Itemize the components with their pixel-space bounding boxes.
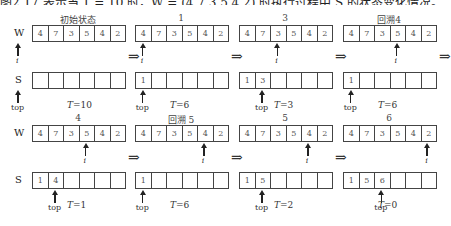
t-value: T=6 [378, 100, 397, 110]
i-pointer-label: i [84, 156, 87, 165]
top-pointer-label: top [48, 203, 61, 212]
panel-caption: 3 [239, 13, 331, 23]
s-cell [406, 173, 422, 188]
w-cell: 5 [80, 126, 96, 141]
w-cell: 4 [136, 26, 152, 41]
s-cell [80, 173, 96, 188]
header-text: 图2.17 表示当 T = 10 时，W = (4,7,3,5,4,2) 时执行… [0, 0, 449, 5]
s-cell: 6 [375, 173, 391, 188]
s-cell [287, 73, 303, 88]
w-cell: 7 [152, 26, 168, 41]
implies-arrow-icon: ⇒ [128, 150, 140, 164]
panel-caption: 5 [239, 113, 331, 123]
top-pointer-label: top [136, 203, 149, 212]
s-cell: 5 [360, 173, 376, 188]
w-cell: 4 [198, 126, 214, 141]
arrow-shaft [203, 147, 205, 156]
i-pointer-label: i [395, 56, 398, 65]
top-pointer-label: top [11, 103, 24, 112]
s-cell [64, 173, 80, 188]
top-pointer-label: top [136, 103, 149, 112]
t-value: T=0 [378, 200, 397, 210]
arrow-shaft [142, 194, 144, 203]
w-cell: 2 [318, 126, 333, 141]
w-cell: 2 [214, 26, 229, 41]
w-cell: 3 [375, 126, 391, 141]
w-cell: 7 [256, 126, 272, 141]
arrow-shaft [277, 47, 279, 56]
w-cell: 2 [422, 126, 437, 141]
s-cell: 5 [256, 173, 272, 188]
s-cell [33, 73, 49, 88]
i-pointer-label: i [425, 156, 428, 165]
w-cell: 5 [391, 26, 407, 41]
arrow-shaft [85, 147, 87, 156]
w-cell: 4 [240, 26, 256, 41]
w-label: W [14, 127, 24, 138]
arrow-shaft [350, 94, 352, 103]
s-cell [391, 173, 407, 188]
w-array: 473542 [343, 125, 437, 142]
w-cell: 4 [302, 126, 318, 141]
s-stack: 1 [135, 72, 229, 89]
s-cell [111, 173, 126, 188]
s-cell [167, 173, 183, 188]
arrow-shaft [307, 147, 309, 156]
w-cell: 4 [198, 26, 214, 41]
arrow-shaft [261, 94, 263, 103]
w-cell: 4 [33, 126, 49, 141]
t-number: =6 [176, 100, 189, 110]
top-pointer-label: top [255, 203, 268, 212]
arrow-shaft [142, 47, 144, 56]
w-cell: 5 [183, 26, 199, 41]
t-value: T=10 [67, 100, 92, 110]
s-stack: 1 [343, 72, 437, 89]
s-cell: 1 [344, 173, 360, 188]
s-stack: 1 [135, 172, 229, 189]
implies-arrow-icon: ⇒ [128, 49, 140, 63]
s-cell [318, 173, 333, 188]
t-value: T=6 [170, 200, 189, 210]
implies-arrow-icon: ⇒ [439, 49, 451, 63]
s-cell: 1 [240, 173, 256, 188]
w-cell: 3 [271, 26, 287, 41]
s-cell [391, 73, 407, 88]
w-cell: 4 [406, 26, 422, 41]
s-cell: 3 [256, 73, 272, 88]
w-cell: 2 [111, 26, 126, 41]
arrow-shaft [142, 94, 144, 103]
s-cell [95, 73, 111, 88]
s-cell: 1 [136, 173, 152, 188]
w-array: 473542 [239, 125, 333, 142]
s-cell [111, 73, 126, 88]
w-cell: 3 [271, 126, 287, 141]
s-cell [167, 73, 183, 88]
s-label: S [15, 174, 22, 185]
s-cell [49, 73, 65, 88]
s-stack: 13 [239, 72, 333, 89]
w-array: 473542 [135, 25, 229, 42]
implies-arrow-icon: ⇒ [231, 150, 243, 164]
w-cell: 5 [183, 126, 199, 141]
w-cell: 4 [240, 126, 256, 141]
s-stack: 15 [239, 172, 333, 189]
w-cell: 3 [167, 126, 183, 141]
s-cell [422, 173, 437, 188]
w-cell: 5 [287, 126, 303, 141]
s-cell [271, 73, 287, 88]
s-cell [360, 73, 376, 88]
i-pointer-label: i [202, 156, 205, 165]
s-cell: 4 [49, 173, 65, 188]
implies-arrow-icon: ⇒ [231, 49, 243, 63]
w-cell: 5 [80, 26, 96, 41]
arrow-shaft [396, 47, 398, 56]
t-value: T=1 [67, 200, 86, 210]
s-cell [271, 173, 287, 188]
s-cell [95, 173, 111, 188]
i-pointer-label: i [275, 56, 278, 65]
w-cell: 7 [152, 126, 168, 141]
panel-caption: 6 [343, 113, 435, 123]
t-number: =6 [176, 200, 189, 210]
s-cell [183, 73, 199, 88]
w-cell: 2 [318, 26, 333, 41]
